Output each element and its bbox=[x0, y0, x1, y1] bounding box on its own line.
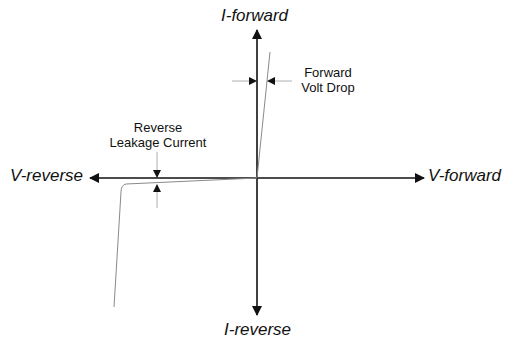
label-i-forward: I-forward bbox=[221, 6, 288, 26]
diode-iv-curve bbox=[114, 52, 270, 307]
annotation-forward-line1: Forward bbox=[296, 65, 360, 80]
label-v-reverse: V-reverse bbox=[10, 166, 83, 186]
label-v-forward: V-forward bbox=[428, 166, 501, 186]
annotation-reverse-line2: Leakage Current bbox=[106, 135, 210, 150]
annotation-forward-volt-drop: Forward Volt Drop bbox=[296, 65, 360, 95]
annotation-reverse-leakage: Reverse Leakage Current bbox=[106, 120, 210, 150]
label-i-reverse: I-reverse bbox=[224, 320, 291, 340]
annotation-reverse-line1: Reverse bbox=[106, 120, 210, 135]
annotation-forward-line2: Volt Drop bbox=[296, 80, 360, 95]
